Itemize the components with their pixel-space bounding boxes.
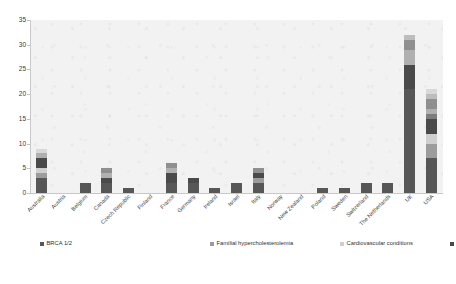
bar-slot [31, 20, 53, 193]
bar-segment [426, 119, 437, 134]
y-axis-tick-mark [27, 94, 30, 95]
legend-item-label: BRCA 1/2 [47, 241, 72, 247]
stacked-bar-chart: 05101520253035 AustraliaAustriaBelgiumCa… [0, 0, 456, 284]
bar-slot [269, 20, 291, 193]
stacked-bar[interactable] [123, 188, 134, 193]
bar-slot [139, 20, 161, 193]
bar-slot [118, 20, 140, 193]
legend-item[interactable]: Cardiovascular conditions [340, 238, 450, 250]
y-axis-tick-label: 0 [22, 190, 26, 197]
legend-item[interactable]: BRCA 1/2 [40, 238, 210, 250]
bar-segment [209, 188, 220, 193]
legend-swatch-icon [40, 242, 44, 246]
bar-segment [404, 50, 415, 65]
bar-slot [74, 20, 96, 193]
bar-series-container [31, 20, 442, 193]
y-axis-tick-mark [27, 119, 30, 120]
stacked-bar[interactable] [36, 149, 47, 193]
legend-item[interactable]: Familial hypercholesterolemia [210, 238, 340, 250]
legend-swatch-icon [340, 242, 344, 246]
legend-item-label: Familial hypercholesterolemia [217, 241, 294, 247]
x-axis-labels: AustraliaAustriaBelgiumCanadaCzech Repub… [31, 194, 442, 240]
y-axis-tick-mark [27, 20, 30, 21]
bar-slot [420, 20, 442, 193]
bar-slot [377, 20, 399, 193]
bar-segment [36, 158, 47, 168]
chart-legend: BRCA 1/2Familial hypercholesterolemiaCar… [40, 238, 440, 276]
y-axis-tick-mark [27, 144, 30, 145]
bar-segment [404, 89, 415, 193]
stacked-bar[interactable] [253, 168, 264, 193]
y-axis: 05101520253035 [0, 0, 30, 193]
y-axis-tick-mark [27, 193, 30, 194]
bar-segment [339, 188, 350, 193]
y-axis-tick-mark [27, 168, 30, 169]
bar-slot [204, 20, 226, 193]
stacked-bar[interactable] [404, 35, 415, 193]
bar-slot [182, 20, 204, 193]
y-axis-tick-label: 5 [22, 165, 26, 172]
bar-segment [123, 188, 134, 193]
bar-slot [334, 20, 356, 193]
bar-segment [382, 183, 393, 193]
stacked-bar[interactable] [231, 183, 242, 193]
bar-segment [188, 183, 199, 193]
bar-slot [53, 20, 75, 193]
stacked-bar[interactable] [101, 168, 112, 193]
y-axis-tick-label: 25 [19, 66, 26, 73]
bar-slot [355, 20, 377, 193]
bar-slot [291, 20, 313, 193]
bar-segment [101, 183, 112, 193]
stacked-bar[interactable] [382, 183, 393, 193]
bar-segment [317, 188, 328, 193]
bar-slot [161, 20, 183, 193]
bar-segment [166, 173, 177, 183]
bar-slot [226, 20, 248, 193]
bar-slot [399, 20, 421, 193]
y-axis-tick-label: 20 [19, 91, 26, 98]
bar-segment [361, 183, 372, 193]
stacked-bar[interactable] [209, 188, 220, 193]
stacked-bar[interactable] [361, 183, 372, 193]
bar-segment [404, 65, 415, 90]
legend-swatch-icon [210, 242, 214, 246]
legend-swatch-icon [450, 242, 454, 246]
bar-segment [253, 183, 264, 193]
stacked-bar[interactable] [188, 178, 199, 193]
bar-segment [426, 99, 437, 109]
bar-segment [231, 183, 242, 193]
bar-segment [166, 183, 177, 193]
y-axis-tick-label: 30 [19, 41, 26, 48]
bar-segment [426, 158, 437, 193]
bar-slot [312, 20, 334, 193]
stacked-bar[interactable] [426, 89, 437, 193]
stacked-bar[interactable] [166, 163, 177, 193]
y-axis-tick-label: 10 [19, 140, 26, 147]
bar-segment [426, 134, 437, 144]
bar-slot [247, 20, 269, 193]
y-axis-tick-mark [27, 69, 30, 70]
stacked-bar[interactable] [317, 188, 328, 193]
stacked-bar[interactable] [339, 188, 350, 193]
bar-slot [96, 20, 118, 193]
bar-segment [426, 144, 437, 159]
legend-item-label: Cardiovascular conditions [347, 241, 413, 247]
bar-segment [36, 178, 47, 193]
legend-item[interactable]: Lynch syndrome [450, 238, 456, 250]
y-axis-tick-mark [27, 45, 30, 46]
y-axis-tick-label: 35 [19, 17, 26, 24]
bar-segment [404, 40, 415, 50]
bar-segment [80, 183, 91, 193]
stacked-bar[interactable] [80, 183, 91, 193]
y-axis-tick-label: 15 [19, 116, 26, 123]
